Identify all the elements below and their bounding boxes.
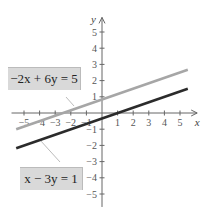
equation-label-gray: −2x + 6y = 5 bbox=[8, 67, 81, 90]
x-tick-label: 1 bbox=[115, 117, 120, 128]
y-tick-label: −1 bbox=[86, 124, 97, 135]
x-tick-label: 2 bbox=[131, 117, 136, 128]
x-tick-label: −2 bbox=[65, 117, 76, 128]
y-axis-label: y bbox=[90, 13, 96, 25]
leader-line-black bbox=[40, 140, 60, 162]
y-tick-label: −3 bbox=[86, 156, 97, 167]
x-tick-label: 4 bbox=[162, 117, 167, 128]
equation-label-black: x − 3y = 1 bbox=[20, 167, 83, 190]
leader-line-gray bbox=[66, 97, 74, 106]
y-tick-label: −2 bbox=[86, 140, 97, 151]
x-axis-label: x bbox=[194, 116, 200, 128]
x-tick-label: 3 bbox=[146, 117, 151, 128]
y-tick-label: −5 bbox=[86, 189, 97, 200]
y-tick-label: 2 bbox=[92, 75, 97, 86]
x-tick-label: −3 bbox=[50, 117, 61, 128]
equation-text-gray: −2x + 6y = 5 bbox=[10, 71, 78, 87]
y-tick-label: 5 bbox=[92, 27, 97, 38]
x-tick-label: 5 bbox=[178, 117, 183, 128]
equation-text-black: x − 3y = 1 bbox=[24, 171, 78, 187]
y-tick-label: 4 bbox=[92, 43, 97, 54]
y-tick-label: −4 bbox=[86, 172, 97, 183]
y-tick-label: 3 bbox=[92, 59, 97, 70]
